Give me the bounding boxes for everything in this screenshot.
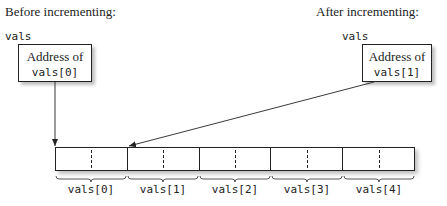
element-braces (56, 176, 414, 182)
after-pointer-arrow (129, 82, 374, 146)
arrows-and-braces (0, 0, 447, 206)
